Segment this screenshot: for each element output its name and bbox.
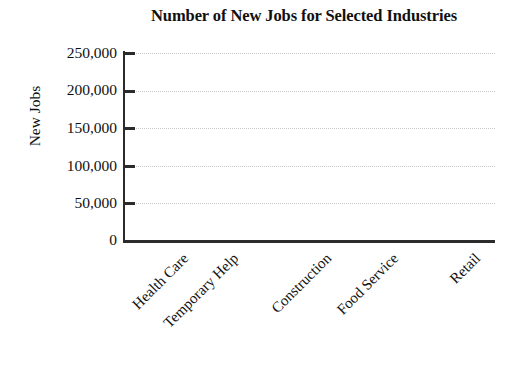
- y-axis-tick-labels: 250,000 200,000 150,000 100,000 50,000 0: [17, 0, 117, 379]
- y-tick-label-100000: 100,000: [17, 157, 117, 175]
- chart-title: Number of New Jobs for Selected Industri…: [96, 6, 512, 26]
- y-tick-label-250000: 250,000: [17, 44, 117, 62]
- y-tick-label-0: 0: [17, 231, 117, 249]
- plot-area: [123, 53, 495, 241]
- y-tick-label-50000: 50,000: [17, 194, 117, 212]
- y-tick-label-200000: 200,000: [17, 81, 117, 99]
- x-category-label-temporary-help: Temporary Help: [145, 250, 242, 347]
- x-category-label-retail: Retail: [432, 250, 484, 302]
- y-tick-label-150000: 150,000: [17, 119, 117, 137]
- chart-figure: Number of New Jobs for Selected Industri…: [0, 0, 515, 379]
